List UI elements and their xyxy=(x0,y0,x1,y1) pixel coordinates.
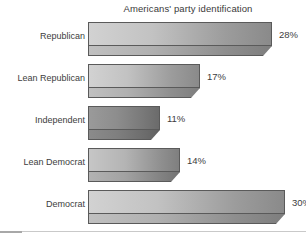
bar-row: Lean Republican17% xyxy=(0,64,306,102)
bar-front-face xyxy=(88,190,285,214)
bar-row: Democrat30% xyxy=(0,190,306,228)
bottom-border-rule-accent xyxy=(0,231,22,233)
bar-front-face xyxy=(88,106,160,130)
bottom-border-rule xyxy=(0,231,306,232)
chart-figure: Americans' party identification Republic… xyxy=(0,0,306,240)
bar-depth-face xyxy=(88,46,272,56)
bar-front-face xyxy=(88,64,200,88)
bar-lean-republican xyxy=(88,64,200,98)
bar-category-label-independent: Independent xyxy=(0,115,85,125)
bar-value-label-independent: 11% xyxy=(167,113,185,124)
bar-category-label-democrat: Democrat xyxy=(0,199,85,209)
bar-front-face xyxy=(88,148,180,172)
bar-category-label-lean-republican: Lean Republican xyxy=(0,73,85,83)
bar-value-label-lean-republican: 17% xyxy=(207,71,226,82)
bar-lean-democrat xyxy=(88,148,180,182)
bar-depth-face xyxy=(88,172,180,182)
bar-depth-face xyxy=(88,214,285,224)
bar-category-label-lean-democrat: Lean Democrat xyxy=(0,157,85,167)
bar-row: Republican28% xyxy=(0,22,306,60)
bar-category-label-republican: Republican xyxy=(0,31,85,41)
bar-value-label-lean-democrat: 14% xyxy=(187,155,206,166)
plot-area: Republican28%Lean Republican17%Independe… xyxy=(0,20,306,235)
bar-value-label-republican: 28% xyxy=(279,29,298,40)
bar-row: Lean Democrat14% xyxy=(0,148,306,186)
bar-republican xyxy=(88,22,272,56)
chart-title: Americans' party identification xyxy=(88,3,288,14)
bar-depth-face xyxy=(88,88,200,98)
bar-front-face xyxy=(88,22,272,46)
bar-row: Independent11% xyxy=(0,106,306,144)
bar-independent xyxy=(88,106,160,140)
bar-democrat xyxy=(88,190,285,224)
bar-depth-face xyxy=(88,130,160,140)
bar-value-label-democrat: 30% xyxy=(292,197,306,208)
